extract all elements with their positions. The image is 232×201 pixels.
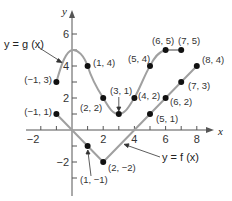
- y-axis-arrow-icon: [69, 10, 75, 18]
- x-tick-label: 6: [163, 133, 169, 145]
- point-label: (1, 4): [93, 57, 115, 68]
- x-tick-label: −2: [27, 133, 40, 145]
- point-label: (−1, 1): [24, 106, 52, 117]
- x-axis-label: x: [217, 125, 223, 137]
- point-label: (7, 3): [188, 80, 210, 91]
- x-axis-arrow-icon: [206, 127, 214, 133]
- point-label: (6, 2): [170, 96, 192, 107]
- point-label: (8, 4): [202, 54, 224, 65]
- point-label: (1, −1): [80, 174, 108, 185]
- y-tick-label: −2: [56, 156, 69, 168]
- point-label: (2, −2): [108, 162, 136, 173]
- x-ticks: [41, 126, 197, 130]
- point-label: (−1, 3): [24, 74, 52, 85]
- point-label: (5, 4): [128, 53, 150, 64]
- x-tick-label: 2: [100, 133, 106, 145]
- y-tick-label: 2: [63, 92, 69, 104]
- x-tick-label: 8: [194, 133, 200, 145]
- point-label: (7, 5): [178, 35, 200, 46]
- y-tick-label: 6: [63, 28, 69, 40]
- point-label: (5, 1): [156, 113, 178, 124]
- f-function-label: y = f (x): [162, 151, 199, 163]
- g-function-label: y = g (x): [4, 38, 44, 50]
- chart-canvas: −2 2 4 6 8 6 4 2 −2 x y (−1, 3) (1, 4): [0, 0, 232, 201]
- x-tick-label: 4: [131, 133, 137, 145]
- g-label-arrow: [38, 47, 62, 63]
- y-axis-label: y: [61, 5, 67, 17]
- point-label: (6, 5): [152, 35, 174, 46]
- f-label-arrow: [124, 144, 160, 157]
- y-ticks: [72, 34, 77, 178]
- point-label: (3, 1): [110, 85, 132, 96]
- point-label: (2, 2): [80, 102, 102, 113]
- point-label: (4, 2): [138, 90, 160, 101]
